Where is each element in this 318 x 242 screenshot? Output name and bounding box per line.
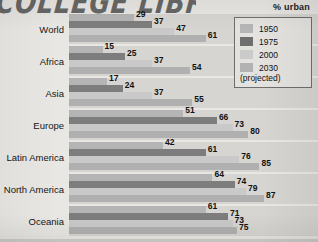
bar-value-label: 37: [154, 55, 163, 65]
bar-value-label: 61: [208, 144, 217, 154]
bar-1975: [69, 85, 123, 92]
bar-row: 85: [69, 163, 318, 170]
bar-value-label: 47: [176, 23, 185, 33]
category-label: Asia: [0, 78, 66, 108]
bar-value-label: 55: [194, 94, 203, 104]
bar-value-label: 15: [105, 41, 114, 51]
category-label: Europe: [0, 110, 66, 140]
bar-value-label: 73: [235, 119, 244, 129]
bar-value-label: 25: [127, 48, 136, 58]
bar-row: 73: [69, 124, 318, 131]
bar-1950: [69, 142, 163, 149]
bar-2000: [69, 92, 152, 99]
legend-swatch-1975-icon: [240, 37, 253, 46]
legend-label: 2000: [259, 50, 278, 60]
legend-item: 1950: [240, 22, 305, 35]
category-label: World: [0, 14, 66, 44]
bar-row: 76: [69, 156, 318, 163]
bar-1950: [69, 110, 183, 117]
category-label: Africa: [0, 46, 66, 76]
bar-value-label: 76: [241, 151, 250, 161]
category-label: Latin America: [0, 142, 66, 172]
bar-1975: [69, 21, 152, 28]
bar-value-label: 87: [266, 190, 275, 200]
legend-label: 1975: [259, 37, 278, 47]
bar-track: 42617685: [69, 142, 318, 172]
bar-value-label: 17: [109, 73, 118, 83]
legend-label: 1950: [259, 24, 278, 34]
bar-row: 71: [69, 213, 318, 220]
bar-row: 73: [69, 220, 318, 227]
bar-track: 51667380: [69, 110, 318, 140]
bar-row: 51: [69, 110, 318, 117]
bar-2000: [69, 60, 152, 67]
bar-1950: [69, 46, 103, 53]
bar-value-label: 64: [214, 169, 223, 179]
bar-2030: [69, 131, 248, 138]
chart-title: % urban: [273, 2, 310, 12]
bar-track: 64747987: [69, 174, 318, 204]
legend-swatch-2000-icon: [240, 50, 253, 59]
chart-legend: 1950 1975 2000 2030 (projected): [234, 17, 312, 88]
bar-1975: [69, 213, 228, 220]
bar-2030: [69, 227, 237, 234]
bar-row: 61: [69, 149, 318, 156]
bar-1975: [69, 149, 206, 156]
bar-value-label: 61: [208, 201, 217, 211]
legend-swatch-1950-icon: [240, 24, 253, 33]
bar-group: Oceania61717375: [0, 206, 318, 236]
bar-track: 61717375: [69, 206, 318, 236]
bar-row: 66: [69, 117, 318, 124]
bar-value-label: 85: [261, 158, 270, 168]
legend-swatch-2030-icon: [240, 63, 253, 72]
bar-value-label: 54: [192, 62, 201, 72]
bar-value-label: 37: [154, 16, 163, 26]
bar-1950: [69, 174, 212, 181]
bar-value-label: 66: [219, 112, 228, 122]
category-label: North America: [0, 174, 66, 204]
bar-row: 79: [69, 188, 318, 195]
bar-1975: [69, 53, 125, 60]
bar-2000: [69, 220, 233, 227]
bar-row: 75: [69, 227, 318, 234]
bar-2030: [69, 35, 206, 42]
bar-1950: [69, 78, 107, 85]
bar-2030: [69, 67, 190, 74]
bar-value-label: 42: [165, 137, 174, 147]
bar-group: North America64747987: [0, 174, 318, 204]
bar-row: 74: [69, 181, 318, 188]
bar-1975: [69, 117, 217, 124]
bar-value-label: 74: [237, 176, 246, 186]
legend-item: 2000: [240, 48, 305, 61]
bar-row: 42: [69, 142, 318, 149]
bar-1950: [69, 14, 134, 21]
bar-group: Europe51667380: [0, 110, 318, 140]
bar-value-label: 79: [248, 183, 257, 193]
bar-value-label: 29: [136, 9, 145, 19]
category-label: Oceania: [0, 206, 66, 236]
bar-row: 80: [69, 131, 318, 138]
bar-2000: [69, 28, 174, 35]
bar-value-label: 75: [239, 222, 248, 232]
bar-2030: [69, 163, 259, 170]
legend-note: (projected): [240, 73, 305, 83]
bar-value-label: 51: [185, 105, 194, 115]
bar-2030: [69, 195, 264, 202]
bar-value-label: 24: [125, 80, 134, 90]
bar-group: Latin America42617685: [0, 142, 318, 172]
bar-2000: [69, 156, 239, 163]
bar-2030: [69, 99, 192, 106]
bar-1950: [69, 206, 206, 213]
bar-value-label: 80: [250, 126, 259, 136]
bar-2000: [69, 124, 233, 131]
bar-value-label: 37: [154, 87, 163, 97]
legend-label: 2030: [259, 63, 278, 73]
bar-row: 87: [69, 195, 318, 202]
bar-row: 61: [69, 206, 318, 213]
bar-value-label: 61: [208, 30, 217, 40]
bar-row: 64: [69, 174, 318, 181]
bar-2000: [69, 188, 246, 195]
bar-1975: [69, 181, 235, 188]
legend-item: 1975: [240, 35, 305, 48]
